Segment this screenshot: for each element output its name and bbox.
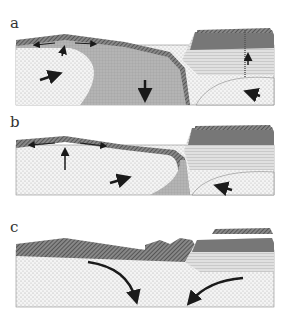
panel-b <box>16 125 274 195</box>
panel-a <box>16 28 274 105</box>
panel-c <box>16 228 274 307</box>
panel-label-b: b <box>10 113 20 131</box>
panel-label-c: c <box>10 218 18 236</box>
diagram-canvas <box>0 0 289 321</box>
panel-label-a: a <box>10 14 19 32</box>
